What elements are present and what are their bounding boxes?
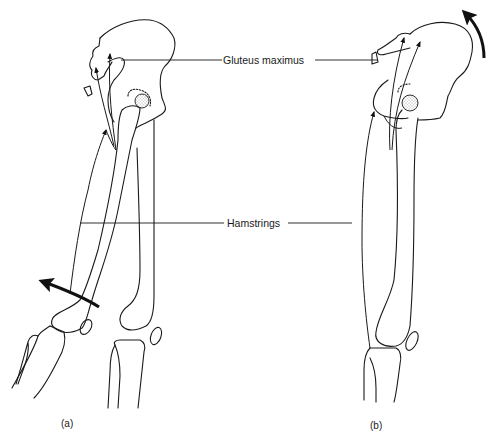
patella-a-right — [148, 326, 164, 346]
panel-b-caption: (b) — [370, 420, 382, 432]
panel-a-caption: (a) — [61, 418, 73, 430]
femoral-head-a — [135, 94, 149, 108]
panel-b — [362, 14, 484, 402]
pelvis-b — [410, 22, 472, 120]
rotation-arrow-b — [466, 14, 484, 58]
femur-a-right — [120, 120, 154, 330]
femur-b — [376, 110, 418, 346]
gluteus-line-b1 — [390, 38, 404, 150]
gluteus-maximus-label: Gluteus maximus — [222, 54, 305, 66]
rotation-arrow-a — [44, 282, 99, 307]
panel-a — [12, 20, 175, 408]
femoral-head-b — [402, 95, 418, 111]
ischium-b — [377, 33, 410, 55]
femur-a — [52, 106, 140, 333]
fibula-b — [364, 348, 376, 402]
hamstrings-label: Hamstrings — [226, 217, 281, 229]
gluteus-line-a2 — [109, 54, 116, 150]
ischium-a — [90, 38, 112, 80]
patella-b — [403, 330, 421, 352]
hamstring-line-a — [70, 130, 106, 294]
fibula-a-right — [108, 345, 120, 408]
patella-a-left — [78, 318, 95, 337]
hamstring-line-b — [362, 112, 374, 348]
